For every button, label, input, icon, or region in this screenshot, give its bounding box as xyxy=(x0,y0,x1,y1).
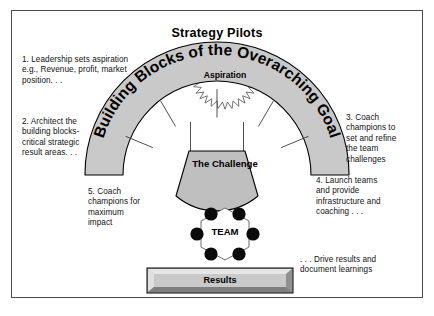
arch-challenge-connectors xyxy=(191,122,244,152)
team-shape xyxy=(190,207,259,260)
diagram-page: Strategy Pilots Building Blocks of the O… xyxy=(0,0,434,316)
note-5: 5. Coach champions for maximum impact xyxy=(88,187,178,229)
note-3: 3. Coach champions to set and refine the… xyxy=(346,113,426,165)
results-shape xyxy=(147,268,293,293)
note-6: . . . Drive results and document learnin… xyxy=(300,255,426,276)
note-2: 2. Architect the building blocks- critic… xyxy=(22,117,118,159)
challenge-shape xyxy=(176,151,258,211)
note-4: 4. Launch teams and provide infrastructu… xyxy=(316,176,426,218)
note-1: 1. Leadership sets aspiration e.g., Reve… xyxy=(22,55,184,86)
